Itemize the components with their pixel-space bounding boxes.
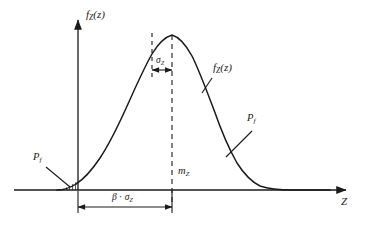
- sigma-label: σZ: [156, 56, 164, 66]
- mean-label: mZ: [178, 166, 190, 178]
- beta-sigma-label: β · σZ: [112, 193, 133, 203]
- failure-probability-right-label: Pf: [247, 113, 255, 125]
- pf-right-leader-line: [226, 131, 252, 157]
- curve-label: fZ(z): [213, 62, 232, 75]
- pf-left-leader-line: [46, 167, 70, 187]
- failure-probability-left-label: Pf: [33, 152, 41, 164]
- gaussian-density-curve: [57, 35, 330, 190]
- probability-density-figure: fZ(z) fZ(z) σZ mZ β · σZ Pf Pf Z: [0, 0, 367, 227]
- figure-canvas: [0, 0, 367, 227]
- z-axis-label: Z: [341, 196, 347, 207]
- density-axis-label: fZ(z): [86, 9, 105, 22]
